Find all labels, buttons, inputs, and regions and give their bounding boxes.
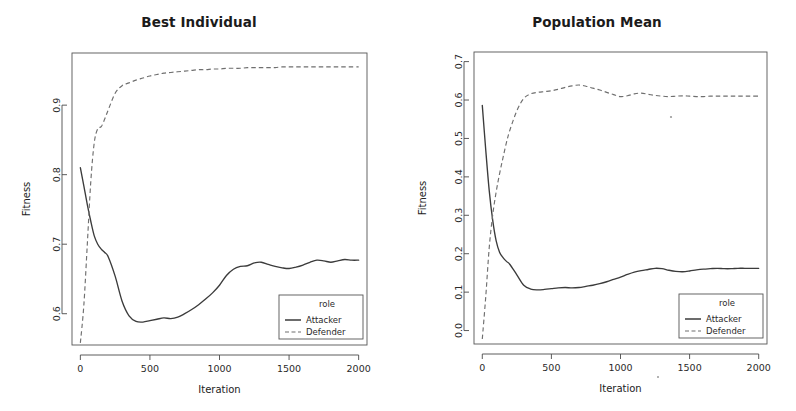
legend-label-defender: Defender	[706, 326, 746, 336]
chart-svg-left: 0.60.70.80.90500100015002000IterationFit…	[0, 0, 398, 411]
y-tick-label-3: 0.9	[52, 98, 63, 113]
legend-label-attacker: Attacker	[306, 315, 342, 325]
x-tick-label-4: 2000	[347, 363, 371, 374]
figure-canvas: Best Individual 0.60.70.80.9050010001500…	[0, 0, 796, 411]
y-axis-title: Fitness	[21, 182, 32, 217]
scan-speck-1	[657, 376, 659, 378]
x-tick-label-2: 1000	[608, 362, 632, 373]
scan-speck-0	[670, 116, 672, 118]
legend-label-defender: Defender	[306, 327, 346, 337]
x-tick-label-1: 500	[542, 362, 560, 373]
x-tick-label-3: 1500	[678, 362, 702, 373]
panel-best-individual: Best Individual 0.60.70.80.9050010001500…	[0, 0, 398, 411]
x-tick-label-1: 500	[141, 363, 159, 374]
x-axis-title: Iteration	[198, 384, 240, 395]
y-tick-label-1: 0.1	[454, 285, 465, 300]
y-tick-label-2: 0.2	[454, 246, 465, 261]
y-tick-label-0: 0.0	[454, 323, 465, 338]
x-tick-label-3: 1500	[277, 363, 301, 374]
legend-label-attacker: Attacker	[706, 314, 742, 324]
x-axis-title: Iteration	[599, 383, 641, 394]
y-tick-label-2: 0.8	[52, 167, 63, 182]
y-axis-title: Fitness	[417, 181, 428, 216]
legend-title: role	[719, 298, 735, 308]
x-tick-label-2: 1000	[207, 363, 231, 374]
y-tick-label-1: 0.7	[52, 237, 63, 252]
panel-population-mean: Population Mean 0.00.10.20.30.40.50.60.7…	[398, 0, 796, 411]
y-tick-label-5: 0.5	[454, 131, 465, 146]
x-tick-label-0: 0	[77, 363, 83, 374]
series-line-attacker	[482, 105, 758, 289]
y-tick-label-6: 0.6	[454, 92, 465, 107]
legend-title: role	[319, 299, 335, 309]
y-tick-label-0: 0.6	[52, 306, 63, 321]
x-tick-label-0: 0	[479, 362, 485, 373]
chart-svg-right: 0.00.10.20.30.40.50.60.70500100015002000…	[398, 0, 796, 411]
x-tick-label-4: 2000	[747, 362, 771, 373]
y-tick-label-4: 0.4	[454, 169, 465, 184]
y-tick-label-3: 0.3	[454, 208, 465, 223]
y-tick-label-7: 0.7	[454, 54, 465, 69]
